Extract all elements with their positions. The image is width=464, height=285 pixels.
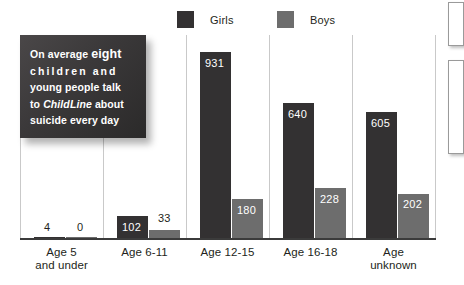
callout-text-to: to: [30, 98, 43, 110]
category-label-age12-15: Age 12-15: [186, 246, 269, 259]
bar-value-boys-age5: 0: [77, 222, 83, 233]
callout-line-2: children and: [30, 63, 137, 80]
bar-value-girls-age5: 4: [44, 222, 50, 233]
callout-line-5: suicide every day: [30, 112, 137, 129]
bar-value-girls-age12-15: 931: [205, 58, 224, 69]
legend-label-boys: Boys: [310, 14, 335, 26]
bar-value-boys-age12-15: 180: [237, 205, 256, 216]
callout-text-childline: ChildLine: [43, 98, 92, 110]
legend-label-girls: Girls: [210, 14, 234, 26]
category-label-age5-line1: Age 5: [20, 246, 103, 259]
bar-value-boys-age-unknown: 202: [403, 199, 422, 210]
x-axis-line: [20, 238, 436, 240]
edge-panel-bottom: [448, 60, 464, 154]
legend-swatch-boys: [277, 11, 294, 28]
bar-girls-age-unknown: [366, 112, 397, 238]
callout-line-1: On average eight: [30, 46, 137, 63]
bar-boys-age6-11: [149, 230, 180, 238]
bar-value-boys-age16-18: 228: [320, 194, 339, 205]
category-label-age-unknown-line2: unknown: [352, 259, 435, 272]
group-separator-2: [186, 35, 187, 238]
callout-line-3: young people talk: [30, 79, 137, 96]
edge-panel-top: [448, 2, 464, 46]
bar-value-girls-age-unknown: 605: [371, 118, 390, 129]
bar-girls-age16-18: [283, 103, 314, 238]
category-label-age5-line2: and under: [20, 259, 103, 272]
callout-text-about: about: [92, 98, 124, 110]
bar-value-girls-age16-18: 640: [288, 109, 307, 120]
group-separator-5: [435, 35, 436, 238]
bar-value-boys-age6-11: 33: [158, 213, 171, 224]
callout-text-on-average: On average: [30, 48, 91, 60]
legend-swatch-girls: [177, 11, 194, 28]
callout-box: On average eight children and young peop…: [20, 35, 146, 138]
bar-girls-age5: [34, 237, 65, 238]
bar-boys-age5: [66, 237, 97, 238]
bar-value-girls-age6-11: 102: [122, 222, 141, 233]
callout-text-eight: eight: [91, 47, 121, 61]
category-label-age6-11: Age 6-11: [103, 246, 186, 259]
group-separator-4: [352, 35, 353, 238]
bar-girls-age12-15: [200, 52, 231, 238]
category-label-age-unknown-line1: Age: [352, 246, 435, 259]
callout-line-4: to ChildLine about: [30, 96, 137, 113]
group-separator-3: [269, 35, 270, 238]
category-label-age16-18: Age 16-18: [269, 246, 352, 259]
